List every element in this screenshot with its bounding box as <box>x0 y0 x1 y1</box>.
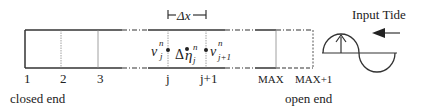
closed-end-label: closed end <box>10 92 65 105</box>
var-v-j-sub: j <box>160 52 163 61</box>
open-end-label: open end <box>285 92 332 105</box>
node-label-max1: MAX+1 <box>295 74 332 85</box>
input-direction-arrowhead <box>372 28 385 38</box>
point-v-j1 <box>204 48 208 52</box>
node-label-j: j <box>166 72 170 85</box>
dx-label: Δx <box>177 9 190 22</box>
point-v-j <box>166 48 170 52</box>
var-v-j1-sub: j+1 <box>218 53 231 62</box>
var-deta-prefix: Δ <box>175 48 184 62</box>
var-deta-sub: j <box>193 56 196 65</box>
node-label-1: 1 <box>24 72 31 85</box>
var-deta-sup: n <box>193 43 198 52</box>
node-label-j1: j+1 <box>200 72 217 85</box>
var-v-j-sup: n <box>159 39 164 48</box>
node-label-max: MAX <box>258 74 284 85</box>
node-label-3: 3 <box>97 72 104 85</box>
var-v-j1-sup: n <box>218 39 223 48</box>
node-label-2: 2 <box>60 72 67 85</box>
var-v-j: v <box>151 45 157 59</box>
var-v-j1: v <box>210 45 216 59</box>
var-deta-base: η <box>185 48 192 63</box>
input-tide-label: Input Tide <box>352 8 406 21</box>
